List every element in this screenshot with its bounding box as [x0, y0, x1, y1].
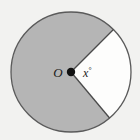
- geometry-figure-container: O x°: [0, 0, 140, 140]
- circle-sector-diagram: O x°: [0, 0, 140, 140]
- center-point-dot: [67, 68, 75, 76]
- center-point-label: O: [53, 65, 63, 80]
